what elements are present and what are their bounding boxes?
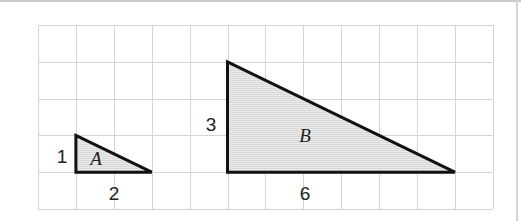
triangle-b-height-label: 3 xyxy=(206,114,217,135)
triangle-a-base-label: 2 xyxy=(109,183,120,204)
triangle-b-name-label: B xyxy=(299,125,311,146)
diagram-canvas: 1 A 2 3 B 6 xyxy=(0,0,521,221)
grid-diagram: 1 A 2 3 B 6 xyxy=(0,0,521,221)
triangle-a-name-label: A xyxy=(88,148,102,169)
triangle-a-height-label: 1 xyxy=(57,146,68,167)
triangle-b-base-label: 6 xyxy=(300,183,311,204)
triangle-a xyxy=(76,135,152,172)
